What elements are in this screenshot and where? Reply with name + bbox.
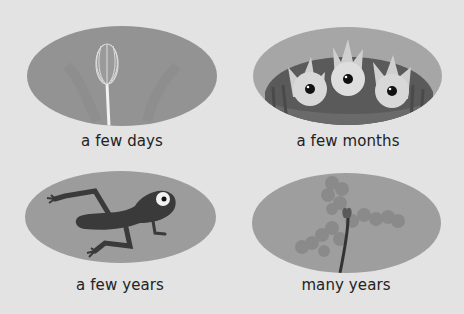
caption-a-few-years: a few years [20, 276, 220, 294]
caption-a-few-days: a few days [22, 132, 222, 150]
dandelion-seedhead-icon [27, 26, 217, 126]
caption-a-few-months: a few months [248, 132, 448, 150]
tree-sapling-icon [252, 173, 441, 273]
baby-birds-in-nest-icon [253, 27, 442, 125]
frog-icon [25, 171, 216, 263]
caption-many-years: many years [246, 276, 446, 294]
